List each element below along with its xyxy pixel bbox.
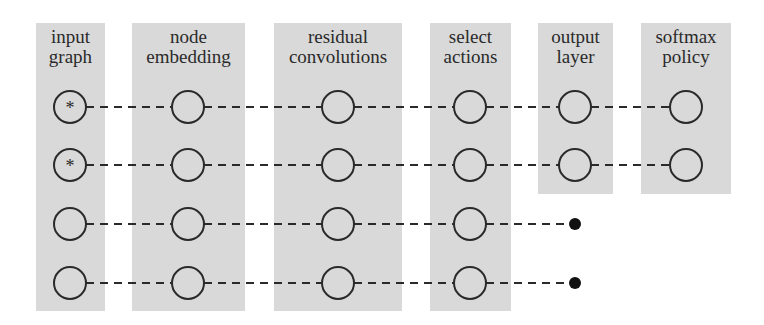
node-circle-icon — [322, 267, 354, 299]
node-circle-icon — [322, 149, 354, 181]
node-circle-icon — [54, 267, 86, 299]
asterisk-marker-icon: * — [66, 98, 75, 118]
node-circle-icon — [454, 149, 486, 181]
node-circle-icon — [54, 208, 86, 240]
node-circle-icon — [322, 208, 354, 240]
terminal-dot-icon — [569, 277, 581, 289]
node-circle-icon — [670, 149, 702, 181]
node-circle-icon — [172, 91, 204, 123]
node-circle-icon — [559, 91, 591, 123]
node-circle-icon — [454, 91, 486, 123]
node-circle-icon — [670, 91, 702, 123]
asterisk-marker-icon: * — [66, 156, 75, 176]
node-circle-icon — [559, 149, 591, 181]
node-connections: ** — [0, 0, 764, 325]
node-circle-icon — [172, 208, 204, 240]
terminal-dot-icon — [569, 218, 581, 230]
node-circle-icon — [172, 267, 204, 299]
node-circle-icon — [172, 149, 204, 181]
node-circle-icon — [454, 267, 486, 299]
node-circle-icon — [322, 91, 354, 123]
node-circle-icon — [454, 208, 486, 240]
